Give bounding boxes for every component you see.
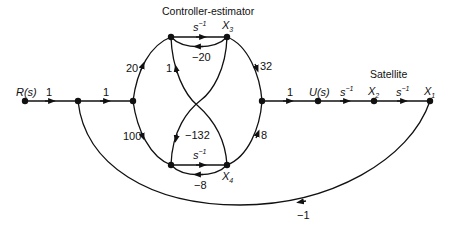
gain-neg132: −132 — [185, 130, 210, 141]
node-top-left — [168, 34, 174, 40]
gain-u-x2: s−1 — [340, 87, 353, 98]
node-u — [315, 98, 321, 104]
gain-20: 20 — [126, 63, 138, 74]
gain-top-integrator: s−1 — [193, 22, 206, 33]
gain-r-n2: 1 — [46, 87, 52, 98]
x2-label: X2 — [368, 86, 379, 97]
x1-label: X1 — [424, 86, 435, 97]
gain-32: 32 — [260, 61, 272, 72]
gain-1-cross: 1 — [166, 63, 172, 74]
gain-bottom-integrator: s−1 — [193, 150, 206, 161]
node-input — [22, 98, 28, 104]
branch-outer-feedback — [78, 101, 430, 205]
signal-flow-graph — [0, 0, 450, 228]
x3-label: X3 — [222, 20, 233, 31]
input-label: R(s) — [16, 87, 37, 98]
node-3 — [130, 98, 136, 104]
gain-x2-x1: s−1 — [396, 87, 409, 98]
satellite-title: Satellite — [370, 69, 407, 80]
branch-feedback-8 — [171, 165, 227, 175]
x4-label: X4 — [222, 171, 233, 182]
node-x4 — [224, 162, 230, 168]
controller-estimator-title: Controller-estimator — [162, 6, 254, 17]
node-bottom-left — [168, 162, 174, 168]
gain-100: 100 — [123, 131, 141, 142]
node-junction — [259, 98, 265, 104]
node-2 — [75, 98, 81, 104]
branch-8 — [227, 101, 262, 165]
u-label: U(s) — [309, 87, 330, 98]
gain-8: 8 — [261, 130, 267, 141]
gain-neg20: −20 — [192, 52, 211, 63]
gain-neg8: −8 — [194, 180, 207, 191]
gain-junction-u: 1 — [287, 87, 293, 98]
gain-n2-n3: 1 — [103, 87, 109, 98]
node-x3 — [224, 34, 230, 40]
branch-feedback-20 — [171, 37, 227, 47]
gain-outer-feedback: −1 — [297, 210, 310, 221]
